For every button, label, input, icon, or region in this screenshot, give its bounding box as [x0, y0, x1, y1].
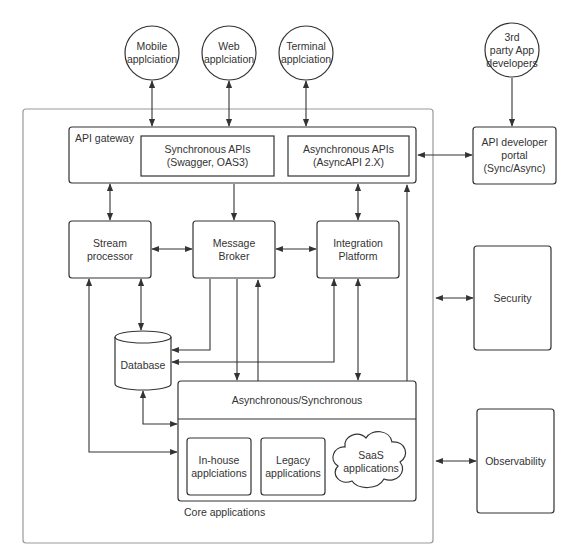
api-developer-portal-label: API developer portal (Sync/Async)	[473, 127, 556, 184]
sync-apis-label: Synchronous APIs (Swagger, OAS3)	[141, 136, 274, 176]
async-apis-label: Asynchronous APIs (AsyncAPI 2.X)	[288, 136, 409, 176]
third-party-developers-label: 3rd party App developers	[480, 28, 544, 72]
web-app-label: Web applciation	[202, 36, 256, 70]
legacy-apps-label: Legacy applications	[261, 438, 325, 495]
stream-processor-label: Stream processor	[69, 221, 151, 278]
core-applications-label: Core applications	[184, 506, 304, 520]
integration-platform-label: Integration Platform	[317, 221, 399, 278]
mobile-app-label: Mobile applciation	[125, 36, 179, 70]
async-sync-label: Asynchronous/Synchronous	[178, 381, 416, 419]
observability-label: Observability	[477, 409, 554, 513]
saas-apps-label: SaaS applications	[337, 440, 405, 484]
security-label: Security	[474, 246, 551, 350]
api-gateway-label: API gateway	[75, 132, 141, 146]
database-label: Database	[115, 350, 171, 380]
terminal-app-label: Terminal applciation	[279, 36, 333, 70]
message-broker-label: Message Broker	[193, 221, 275, 278]
in-house-apps-label: In-house applciations	[187, 438, 251, 495]
